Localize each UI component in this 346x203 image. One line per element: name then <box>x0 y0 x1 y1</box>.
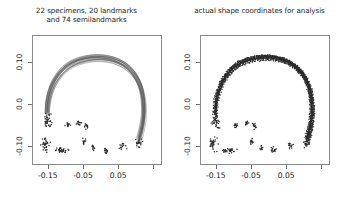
y-tick-label: 0.10 <box>183 54 192 71</box>
x-tick <box>83 165 84 169</box>
panel-right-title: actual shape coordinates for analysis <box>173 6 346 15</box>
x-tick <box>118 165 119 169</box>
panel-left-title-line2: and 74 semilandmarks <box>0 15 173 24</box>
y-tick <box>196 104 200 105</box>
panel-left-title-line1: 22 specimens, 20 landmarks <box>0 6 173 15</box>
x-tick-label: -0.05 <box>241 171 261 180</box>
morphometrics-figure: 22 specimens, 20 landmarks and 74 semila… <box>0 0 346 203</box>
plot-area-left <box>32 35 162 165</box>
x-tick <box>48 165 49 169</box>
x-tick-label: 0.05 <box>278 171 295 180</box>
scatter-points-right <box>200 35 330 165</box>
y-tick-label: 0.10 <box>15 54 24 71</box>
y-tick <box>196 146 200 147</box>
y-tick <box>28 146 32 147</box>
y-tick <box>28 62 32 63</box>
x-tick <box>286 165 287 169</box>
x-tick-label: 0.05 <box>110 171 127 180</box>
panel-left-title: 22 specimens, 20 landmarks and 74 semila… <box>0 6 173 24</box>
x-tick-label: -0.15 <box>38 171 58 180</box>
x-tick <box>216 165 217 169</box>
y-tick-label: -0.10 <box>15 136 24 156</box>
x-tick-label: -0.05 <box>73 171 93 180</box>
panel-right-title-line1: actual shape coordinates for analysis <box>173 6 346 15</box>
x-tick <box>251 165 252 169</box>
y-tick-label: -0.10 <box>183 136 192 156</box>
scatter-curves-left <box>32 35 162 165</box>
y-tick <box>28 104 32 105</box>
panel-right: actual shape coordinates for analysis -0… <box>173 0 346 203</box>
y-tick-label: 0.0 <box>183 98 192 110</box>
plot-area-right <box>200 35 330 165</box>
x-tick <box>321 165 322 169</box>
y-tick-label: 0.0 <box>15 98 24 110</box>
x-tick <box>153 165 154 169</box>
panel-left: 22 specimens, 20 landmarks and 74 semila… <box>0 0 173 203</box>
y-tick <box>196 62 200 63</box>
x-tick-label: -0.15 <box>206 171 226 180</box>
